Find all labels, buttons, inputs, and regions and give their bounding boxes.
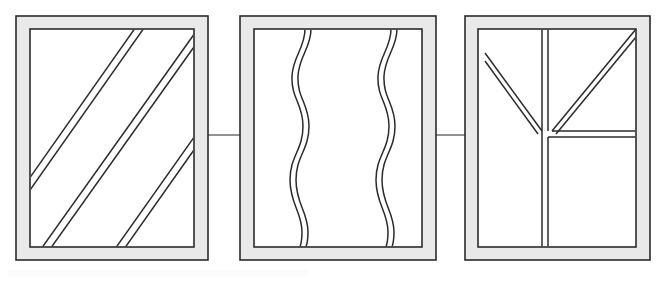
bottom-scan-artifact	[8, 270, 308, 277]
panel-1[interactable]	[16, 16, 208, 260]
panel-2[interactable]	[240, 16, 436, 260]
panel-3[interactable]	[465, 16, 650, 260]
panel-2-inner-area	[254, 29, 422, 247]
figure-root	[0, 0, 664, 283]
panel-3-inner-area	[478, 29, 636, 247]
figure-canvas	[0, 0, 664, 283]
